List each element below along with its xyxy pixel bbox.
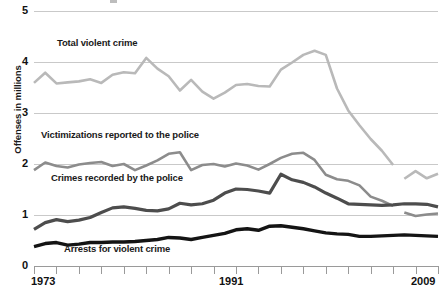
series-label-victimizations-reported: Victimizations reported to the police (41, 130, 199, 140)
x-tick-label-start: 1973 (31, 276, 55, 287)
x-axis-tickmarks (35, 266, 439, 274)
series-label-arrests: Arrests for violent crime (64, 244, 170, 254)
series-line-total-violent-crime-seg1 (34, 51, 393, 165)
series-label-crimes-recorded: Crimes recorded by the police (51, 173, 183, 183)
x-tick-label-end: 2009 (411, 276, 435, 287)
violent-crime-line-chart: Offenses in millions 5 4 3 2 1 0 1973 19… (0, 0, 445, 292)
series-line-total-violent-crime-seg2 (404, 171, 438, 179)
x-tick-label-middle: 1991 (219, 276, 243, 287)
series-label-total-violent-crime: Total violent crime (57, 38, 137, 48)
series-lines (34, 51, 438, 247)
